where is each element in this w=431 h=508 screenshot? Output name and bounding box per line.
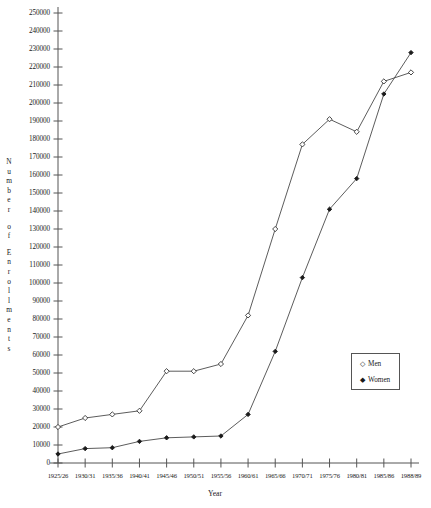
- y-tick-label: 100000: [8, 279, 50, 287]
- y-tick-label: 220000: [8, 63, 50, 71]
- y-tick-label: 170000: [8, 153, 50, 161]
- data-point-men-1960-61: [245, 313, 250, 318]
- y-axis-title-letter: m: [3, 305, 15, 315]
- legend-label-women: Women: [367, 376, 390, 384]
- open-diamond-icon: ◇: [357, 361, 367, 368]
- data-point-women-1970-71: [300, 275, 304, 279]
- data-point-men-1945-46: [164, 369, 169, 374]
- data-point-women-1930-31: [83, 446, 87, 450]
- y-tick-label: 250000: [8, 9, 50, 17]
- data-point-men-1930-31: [83, 415, 88, 420]
- y-tick-label: 140000: [8, 207, 50, 215]
- data-point-men-1955-56: [218, 361, 223, 366]
- y-tick-label: 10000: [8, 441, 50, 449]
- y-tick-label: 190000: [8, 117, 50, 125]
- y-tick-label: 130000: [8, 225, 50, 233]
- y-tick-label: 90000: [8, 297, 50, 305]
- data-point-women-1945-46: [164, 436, 168, 440]
- data-point-women-1935-36: [110, 446, 114, 450]
- y-tick-label: 180000: [8, 135, 50, 143]
- legend-item-women: ◆ Women: [357, 375, 390, 385]
- y-tick-label: 40000: [8, 387, 50, 395]
- y-axis-title: Number of Enrollments: [3, 157, 15, 353]
- data-point-men-1985-86: [381, 79, 386, 84]
- y-tick-label: 20000: [8, 423, 50, 431]
- data-point-men-1965-66: [273, 226, 278, 231]
- data-point-men-1925-26: [55, 424, 60, 429]
- y-axis-title-letter: l: [3, 286, 15, 296]
- legend-item-men: ◇ Men: [357, 359, 381, 369]
- y-tick-label: 120000: [8, 243, 50, 251]
- series-group: [55, 50, 413, 456]
- y-axis-title-letter: [3, 215, 15, 222]
- chart-legend: ◇ Men ◆ Women: [351, 353, 400, 390]
- data-point-women-1965-66: [273, 349, 277, 353]
- y-tick-label: 160000: [8, 171, 50, 179]
- enrollment-line-chart: Number of Enrollments 010000200003000040…: [0, 0, 431, 508]
- data-point-women-1940-41: [137, 439, 141, 443]
- series-line-women: [58, 53, 411, 454]
- data-point-women-1925-26: [56, 452, 60, 456]
- data-point-men-1980-81: [354, 129, 359, 134]
- x-tick-label: 1988/89: [391, 472, 431, 480]
- y-tick-label: 110000: [8, 261, 50, 269]
- y-tick-label: 210000: [8, 81, 50, 89]
- y-tick-label: 200000: [8, 99, 50, 107]
- y-tick-label: 150000: [8, 189, 50, 197]
- axes-group: [50, 7, 419, 468]
- y-axis-title-letter: e: [3, 195, 15, 205]
- data-point-women-1950-51: [192, 435, 196, 439]
- y-tick-label: 50000: [8, 369, 50, 377]
- data-point-men-1935-36: [110, 412, 115, 417]
- y-tick-label: 240000: [8, 27, 50, 35]
- y-tick-label: 230000: [8, 45, 50, 53]
- y-tick-label: 60000: [8, 351, 50, 359]
- data-point-men-1950-51: [191, 369, 196, 374]
- y-tick-label: 0: [8, 459, 50, 467]
- data-point-men-1940-41: [137, 408, 142, 413]
- y-tick-label: 30000: [8, 405, 50, 413]
- filled-diamond-icon: ◆: [357, 377, 367, 384]
- y-tick-label: 70000: [8, 333, 50, 341]
- x-axis-title: Year: [185, 489, 245, 498]
- legend-label-men: Men: [367, 360, 381, 368]
- chart-plot-area: [0, 0, 431, 508]
- data-point-men-1988-89: [408, 70, 413, 75]
- y-tick-label: 80000: [8, 315, 50, 323]
